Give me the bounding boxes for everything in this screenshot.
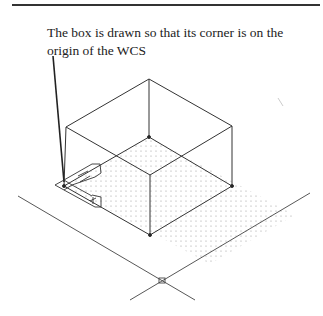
box-figure	[0, 0, 323, 316]
leader-line	[53, 56, 64, 182]
faint-mark	[278, 98, 283, 106]
dotted-grid	[0, 0, 323, 316]
